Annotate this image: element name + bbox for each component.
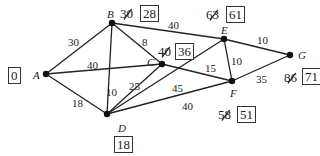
edge-weight-bd: 10	[106, 87, 117, 98]
strike-mark	[206, 7, 219, 22]
edge-weight-bc: 8	[142, 37, 148, 48]
distance-old-c: 40	[158, 44, 171, 59]
strike-mark	[120, 6, 133, 21]
distance-final-e: 61	[226, 6, 245, 23]
strike-mark	[284, 70, 297, 85]
distance-old-e: 63	[206, 7, 219, 22]
node-label-d: D	[118, 123, 126, 134]
node-e	[221, 36, 227, 42]
node-g	[287, 52, 293, 58]
node-a	[43, 71, 49, 77]
strike-mark	[158, 44, 171, 59]
edge-weight-df: 40	[182, 101, 193, 112]
graph-diagram: 30 40 18 8 40 10 25 15 45 40 10 10 35 A …	[0, 0, 320, 156]
edge-weight-cf: 15	[205, 63, 216, 74]
edge-weight-be: 40	[168, 20, 179, 31]
edge-weight-fg: 35	[256, 74, 267, 85]
node-label-g: G	[298, 50, 306, 61]
edge-weight-ad: 18	[72, 98, 83, 109]
distance-final-b: 28	[140, 5, 159, 22]
edge-weight-ef: 10	[231, 56, 242, 67]
node-label-f: F	[230, 88, 237, 99]
distance-final-g: 71	[302, 68, 320, 85]
node-b	[109, 20, 115, 26]
edge-weight-ab: 30	[68, 37, 79, 48]
edge-weight-ac: 40	[87, 60, 98, 71]
node-d	[104, 111, 110, 117]
node-f	[229, 78, 235, 84]
node-label-b: B	[107, 9, 114, 20]
distance-old-f: 58	[218, 107, 231, 122]
edge-ac	[46, 64, 162, 74]
graph-edges	[0, 0, 320, 156]
edge-weight-eg: 10	[257, 35, 268, 46]
edge-weight-de: 45	[172, 83, 183, 94]
node-label-c: C	[147, 57, 154, 68]
distance-final-d: 18	[114, 136, 133, 153]
distance-final-c: 36	[175, 43, 194, 60]
distance-final-a: 0	[8, 67, 21, 84]
distance-old-g: 86	[284, 70, 297, 85]
edge-ab	[46, 23, 112, 74]
distance-old-b: 30	[120, 6, 133, 21]
strike-mark	[218, 107, 231, 122]
edge-weight-cd: 25	[129, 81, 140, 92]
node-label-a: A	[33, 70, 40, 81]
node-label-e: E	[221, 25, 228, 36]
node-c	[159, 61, 165, 67]
distance-final-f: 51	[237, 106, 256, 123]
